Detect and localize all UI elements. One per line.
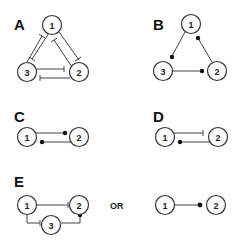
- svg-text:2: 2: [76, 133, 81, 143]
- panel-e: E 1 2 3 OR 1 2: [14, 173, 226, 235]
- panel-e-left: 1 2 3: [18, 196, 89, 235]
- panel-label-a: A: [14, 16, 25, 33]
- svg-text:1: 1: [24, 201, 29, 211]
- or-label: OR: [110, 201, 124, 211]
- panel-label-e: E: [14, 173, 24, 190]
- panel-d: D 1 2: [153, 108, 228, 147]
- panel-c: C 1 2: [14, 108, 89, 147]
- edge-1-to-3: [172, 32, 185, 56]
- edge-2-to-1: [54, 40, 72, 67]
- edge-1-to-3: [32, 33, 49, 59]
- svg-text:1: 1: [49, 21, 54, 31]
- network-motifs-diagram: A 1 2 3 B 1 2 3 C: [0, 0, 244, 243]
- edge-1-to-2: [59, 32, 79, 60]
- panel-b: B 1 2 3: [153, 15, 227, 81]
- panel-label-b: B: [153, 16, 164, 33]
- svg-text:2: 2: [76, 201, 81, 211]
- svg-text:2: 2: [213, 201, 218, 211]
- svg-text:2: 2: [76, 68, 81, 78]
- svg-text:1: 1: [162, 133, 167, 143]
- svg-text:1: 1: [162, 201, 167, 211]
- panel-label-c: C: [14, 108, 25, 125]
- panel-e-right: 1 2: [156, 196, 226, 215]
- svg-text:3: 3: [48, 221, 53, 231]
- svg-text:3: 3: [24, 68, 29, 78]
- svg-text:3: 3: [160, 67, 165, 77]
- svg-text:1: 1: [24, 133, 29, 143]
- edge-3-to-2: [61, 215, 80, 223]
- svg-text:2: 2: [214, 67, 219, 77]
- svg-text:2: 2: [215, 133, 220, 143]
- edge-1-to-3: [27, 214, 40, 223]
- panel-label-d: D: [153, 108, 164, 125]
- panel-a: A 1 2 3: [14, 16, 89, 82]
- edge-2-to-1: [198, 38, 212, 62]
- svg-text:1: 1: [188, 20, 193, 30]
